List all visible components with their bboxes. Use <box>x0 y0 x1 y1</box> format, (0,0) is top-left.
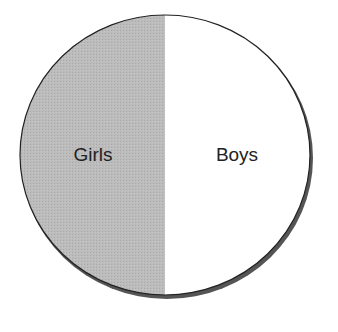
label-boys: Boys <box>216 144 258 165</box>
label-girls: Girls <box>73 144 112 165</box>
pie-chart: Girls Boys <box>0 0 338 332</box>
